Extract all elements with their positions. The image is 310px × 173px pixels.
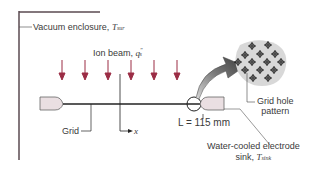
sink-label-line2: sink, Tsink [207,152,300,163]
sink-label-line1: Water-cooled electrode [207,141,300,151]
right-electrode [200,97,224,110]
enclosure-text: Vacuum enclosure, [33,22,112,32]
ion-beam-arrows [59,60,180,80]
left-electrode [40,97,63,110]
ion-beam-subscript: s [140,51,142,57]
length-label: L = 115 mm [178,118,230,128]
ion-beam-text: Ion beam, [93,48,136,58]
pattern-label-line1: Grid hole [257,96,294,106]
sink-text: sink, [236,152,257,162]
ion-beam-label: Ion beam, q″s [93,45,142,59]
x-axis-label: x [134,126,138,136]
sink-label: Water-cooled electrode sink, Tsink [207,141,300,163]
grid-label: Grid [62,126,79,136]
sink-subscript: sink [262,155,272,161]
pattern-label-line2: pattern [257,106,294,116]
grid-hole-pattern [234,40,286,86]
pattern-label: Grid hole pattern [257,96,294,116]
enclosure-label: Vacuum enclosure, Tsur [33,22,125,33]
enclosure-subscript: sur [117,25,125,31]
vacuum-enclosure [19,11,100,160]
